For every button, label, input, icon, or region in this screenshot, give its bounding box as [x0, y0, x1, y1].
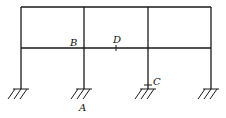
label-b: B	[69, 37, 77, 48]
fixed-support-4	[198, 89, 219, 99]
fixed-support-2	[71, 89, 92, 99]
label-a: A	[78, 102, 86, 113]
fixed-support-3	[135, 89, 156, 99]
label-d: D	[112, 34, 121, 45]
fixed-support-1	[8, 89, 29, 99]
label-c: C	[153, 76, 161, 87]
frame-diagram: B D C A	[0, 0, 226, 118]
